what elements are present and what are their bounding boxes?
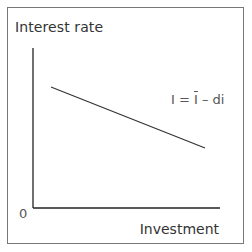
equation-lhs: I =	[171, 92, 194, 107]
x-axis-label: Investment	[140, 221, 219, 237]
equation-rhs: – di	[198, 92, 225, 107]
investment-diagram	[0, 0, 252, 252]
equation-label: I = I – di	[171, 92, 224, 107]
origin-label: 0	[19, 206, 27, 221]
